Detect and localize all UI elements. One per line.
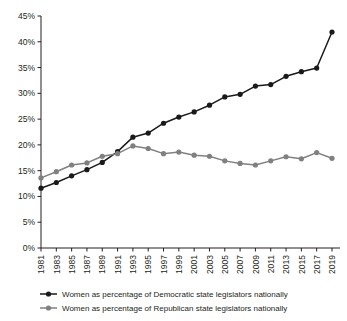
data-point (253, 84, 258, 89)
chart-legend: Women as percentage of Democratic state … (40, 290, 288, 313)
data-point (54, 180, 59, 185)
data-point (314, 150, 319, 155)
data-point (329, 29, 334, 34)
x-axis-tick-label: 2009 (251, 255, 261, 274)
x-axis-tick-label: 2001 (189, 255, 199, 274)
data-point (161, 151, 166, 156)
y-axis-tick-label: 10% (18, 191, 35, 201)
series-republican (38, 143, 334, 180)
data-point (130, 135, 135, 140)
series-line (41, 32, 332, 188)
legend-marker-icon (46, 291, 51, 296)
data-point (314, 65, 319, 70)
x-axis-tick-label: 2013 (281, 255, 291, 274)
data-point (69, 173, 74, 178)
x-axis-tick-label: 1987 (82, 255, 92, 274)
data-point (38, 186, 43, 191)
data-point (299, 156, 304, 161)
data-point (69, 162, 74, 167)
data-point (299, 69, 304, 74)
y-axis-tick-label: 30% (18, 88, 35, 98)
x-axis-tick-label: 1985 (67, 255, 77, 274)
legend-label: Women as percentage of Republican state … (62, 304, 287, 313)
y-axis-tick-label: 40% (18, 37, 35, 47)
data-point (283, 74, 288, 79)
data-point (207, 154, 212, 159)
data-point (84, 167, 89, 172)
data-point (238, 92, 243, 97)
x-axis: 1981198319851987198919911993199519971999… (36, 248, 340, 274)
data-point (84, 160, 89, 165)
data-point (115, 151, 120, 156)
x-axis-tick-label: 1991 (113, 255, 123, 274)
data-point (54, 169, 59, 174)
y-axis: 0%5%10%15%20%25%30%35%40%45% (18, 11, 41, 253)
x-axis-tick-label: 1983 (52, 255, 62, 274)
data-point (283, 154, 288, 159)
data-point (176, 150, 181, 155)
x-axis-tick-label: 2007 (235, 255, 245, 274)
x-axis-tick-label: 2005 (220, 255, 230, 274)
data-point (176, 114, 181, 119)
data-point (192, 109, 197, 114)
series-democratic (38, 29, 334, 190)
x-axis-tick-label: 2019 (327, 255, 337, 274)
data-point (130, 143, 135, 148)
y-axis-tick-label: 0% (23, 243, 36, 253)
x-axis-tick-label: 1981 (36, 255, 46, 274)
legend-marker-icon (46, 305, 51, 310)
data-point (100, 160, 105, 165)
x-axis-tick-label: 2015 (297, 255, 307, 274)
x-axis-tick-label: 2011 (266, 255, 276, 274)
data-point (238, 161, 243, 166)
data-point (222, 158, 227, 163)
data-point (100, 154, 105, 159)
data-point (146, 146, 151, 151)
x-axis-tick-label: 1995 (143, 255, 153, 274)
x-axis-tick-label: 1989 (97, 255, 107, 274)
data-point (268, 158, 273, 163)
legend-item[interactable]: Women as percentage of Republican state … (40, 304, 287, 313)
x-axis-tick-label: 1999 (174, 255, 184, 274)
series-layer (38, 29, 334, 190)
data-point (38, 175, 43, 180)
y-axis-tick-label: 25% (18, 114, 35, 124)
x-axis-tick-label: 1997 (159, 255, 169, 274)
data-point (253, 162, 258, 167)
data-point (207, 103, 212, 108)
data-point (161, 121, 166, 126)
y-axis-tick-label: 20% (18, 140, 35, 150)
legend-item[interactable]: Women as percentage of Democratic state … (40, 290, 288, 299)
chart-container: 0%5%10%15%20%25%30%35%40%45% 19811983198… (0, 0, 347, 321)
x-axis-tick-label: 1993 (128, 255, 138, 274)
y-axis-tick-label: 15% (18, 166, 35, 176)
y-axis-tick-label: 5% (23, 217, 36, 227)
data-point (222, 94, 227, 99)
x-axis-tick-label: 2003 (205, 255, 215, 274)
data-point (268, 82, 273, 87)
line-chart: 0%5%10%15%20%25%30%35%40%45% 19811983198… (0, 0, 347, 321)
data-point (329, 156, 334, 161)
data-point (146, 130, 151, 135)
y-axis-tick-label: 35% (18, 63, 35, 73)
x-axis-tick-label: 2017 (312, 255, 322, 274)
legend-label: Women as percentage of Democratic state … (62, 290, 288, 299)
data-point (192, 153, 197, 158)
y-axis-tick-label: 45% (18, 11, 35, 21)
